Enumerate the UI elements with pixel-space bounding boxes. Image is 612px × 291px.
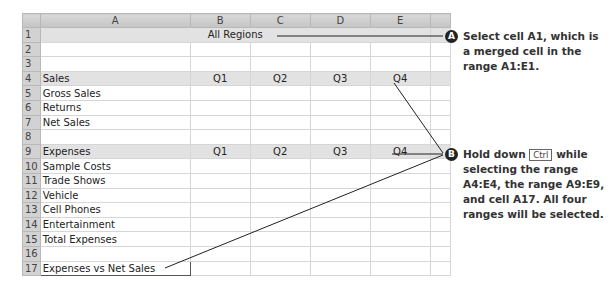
callout-b-text: Hold down Ctrl while selecting the range…	[463, 147, 608, 222]
callout-b-text-before: Hold down	[463, 148, 526, 160]
ctrl-key-icon: Ctrl	[529, 149, 552, 161]
callout-b-badge: B	[445, 148, 458, 161]
callout-a-badge: A	[445, 30, 458, 43]
callout-a-text: Select cell A1, which is a merged cell i…	[463, 29, 608, 74]
